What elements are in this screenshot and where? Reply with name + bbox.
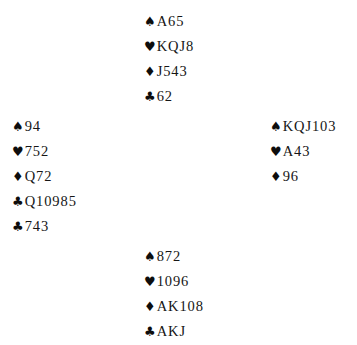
suit-row: ♣ 743 <box>12 219 77 244</box>
suit-row: ♥ A43 <box>270 144 336 169</box>
heart-icon: ♥ <box>144 275 156 288</box>
card-ranks: Q72 <box>25 169 53 184</box>
suit-row: ♥ 1096 <box>144 274 204 299</box>
card-ranks: J543 <box>157 64 188 79</box>
card-ranks: 96 <box>283 169 299 184</box>
spade-icon: ♠ <box>270 120 282 133</box>
suit-row: ♥ 752 <box>12 144 77 169</box>
suit-row: ♦ 96 <box>270 169 336 194</box>
diamond-icon: ♦ <box>270 170 282 183</box>
heart-icon: ♥ <box>12 145 24 158</box>
suit-row: ♦ Q72 <box>12 169 77 194</box>
suit-row: ♠ A65 <box>144 14 194 39</box>
hand-east: ♠ KQJ103 ♥ A43 ♦ 96 <box>270 119 336 194</box>
card-ranks: KQJ8 <box>157 39 194 54</box>
suit-row: ♣ 62 <box>144 89 194 114</box>
suit-row: ♣ AKJ <box>144 324 204 345</box>
bridge-deal-diagram: ♠ A65 ♥ KQJ8 ♦ J543 ♣ 62 ♠ 94 ♥ 752 ♦ Q7… <box>0 0 357 345</box>
hand-south: ♠ 872 ♥ 1096 ♦ AK108 ♣ AKJ <box>144 249 204 345</box>
suit-row: ♥ KQJ8 <box>144 39 194 64</box>
club-icon: ♣ <box>12 220 24 233</box>
hand-north: ♠ A65 ♥ KQJ8 ♦ J543 ♣ 62 <box>144 14 194 114</box>
card-ranks: A65 <box>157 14 185 29</box>
suit-row: ♣ Q10985 <box>12 194 77 219</box>
card-ranks: 1096 <box>157 274 190 289</box>
club-icon: ♣ <box>144 90 156 103</box>
suit-row: ♠ 94 <box>12 119 77 144</box>
spade-icon: ♠ <box>144 250 156 263</box>
card-ranks: A43 <box>283 144 311 159</box>
card-ranks: 752 <box>25 144 49 159</box>
card-ranks: 94 <box>25 119 41 134</box>
heart-icon: ♥ <box>144 40 156 53</box>
card-ranks: AKJ <box>157 324 186 339</box>
card-ranks: 743 <box>25 219 49 234</box>
suit-row: ♦ AK108 <box>144 299 204 324</box>
spade-icon: ♠ <box>12 120 24 133</box>
card-ranks: KQJ103 <box>283 119 337 134</box>
club-icon: ♣ <box>144 325 156 338</box>
suit-row: ♦ J543 <box>144 64 194 89</box>
card-ranks: AK108 <box>157 299 204 314</box>
heart-icon: ♥ <box>270 145 282 158</box>
suit-row: ♠ KQJ103 <box>270 119 336 144</box>
diamond-icon: ♦ <box>144 65 156 78</box>
hand-west: ♠ 94 ♥ 752 ♦ Q72 ♣ Q10985 ♣ 743 <box>12 119 77 244</box>
diamond-icon: ♦ <box>144 300 156 313</box>
club-icon: ♣ <box>12 195 24 208</box>
card-ranks: 872 <box>157 249 181 264</box>
diamond-icon: ♦ <box>12 170 24 183</box>
spade-icon: ♠ <box>144 15 156 28</box>
card-ranks: Q10985 <box>25 194 77 209</box>
card-ranks: 62 <box>157 89 173 104</box>
suit-row: ♠ 872 <box>144 249 204 274</box>
